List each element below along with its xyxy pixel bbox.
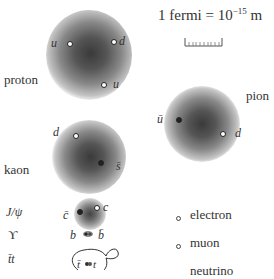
proton-cloud <box>46 10 132 100</box>
bbbar-pair-icon <box>82 230 94 238</box>
quark-u-icon <box>67 41 73 47</box>
upsilon-label: ϒ <box>8 227 17 243</box>
pion-label: pion <box>246 88 269 104</box>
scale-bar-icon <box>184 36 224 48</box>
antiquark-icon <box>77 209 83 215</box>
electron-icon <box>176 216 181 221</box>
ttbar-label: t̄t <box>8 252 15 267</box>
upsilon-quark-b: b <box>70 228 76 243</box>
quark-d-icon <box>111 39 117 45</box>
pion-cloud <box>164 86 240 162</box>
antiquark-icon <box>98 160 104 166</box>
jpsi-quark-c: c <box>103 200 108 215</box>
quark-c-icon <box>94 205 100 211</box>
muon-icon <box>176 244 181 249</box>
legend-muon: muon <box>190 235 220 251</box>
antiquark-icon <box>176 117 182 123</box>
pion-quark-d: d <box>235 126 241 141</box>
scale-text: 1 fermi = 10 <box>158 7 233 23</box>
kaon-quark-d: d <box>53 125 59 140</box>
ttbar-quark-t: t <box>93 258 96 270</box>
kaon-label: kaon <box>4 162 29 178</box>
kaon-cloud <box>52 120 126 194</box>
proton-label: proton <box>4 72 38 88</box>
ttbar-bubble-icon <box>64 244 120 270</box>
scale-unit: m <box>247 7 262 23</box>
upsilon-quark-bbar: b̄ <box>98 228 104 243</box>
jpsi-label: J/ψ <box>6 205 22 220</box>
quark-d-icon <box>73 133 79 139</box>
proton-quark-u2: u <box>113 77 119 92</box>
quark-u-icon <box>101 82 107 88</box>
kaon-quark-sbar: s̄ <box>116 159 121 174</box>
pion-quark-ubar: ū <box>157 112 163 127</box>
scale-label: 1 fermi = 10−15 m <box>158 6 262 24</box>
ttbar-pair-icon <box>84 261 92 267</box>
legend-electron: electron <box>190 207 232 223</box>
scale-exponent: −15 <box>233 6 247 16</box>
legend-neutrino: neutrino <box>190 263 233 279</box>
proton-quark-d: d <box>119 34 125 49</box>
proton-quark-u1: u <box>51 36 57 51</box>
quark-d-icon <box>220 131 226 137</box>
ttbar-quark-tbar: t̄ <box>77 258 80 270</box>
jpsi-quark-cbar: c̄ <box>63 208 68 223</box>
